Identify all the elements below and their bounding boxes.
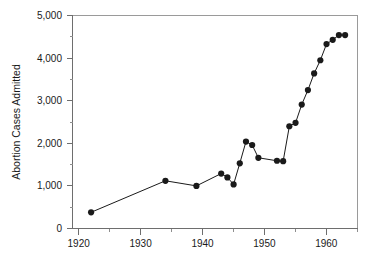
data-point	[299, 101, 305, 107]
data-point	[243, 139, 249, 145]
y-tick-label-3000: 3,000	[37, 95, 62, 106]
y-tick-label-5000: 5,000	[37, 10, 62, 21]
data-point	[330, 37, 336, 43]
data-point	[218, 170, 224, 176]
y-tick-label-1000: 1,000	[37, 180, 62, 191]
data-point	[317, 57, 323, 63]
y-tick-label-4000: 4,000	[37, 53, 62, 64]
data-point	[311, 70, 317, 76]
data-point	[162, 178, 168, 184]
x-tick-label-1940: 1940	[191, 238, 214, 249]
data-point	[237, 160, 243, 166]
data-point	[274, 158, 280, 164]
data-point	[292, 120, 298, 126]
x-tick-label-1950: 1950	[253, 238, 276, 249]
y-tick-label-2000: 2,000	[37, 138, 62, 149]
x-tick-label-1920: 1920	[68, 238, 91, 249]
data-point	[230, 181, 236, 187]
data-point	[336, 32, 342, 38]
data-point	[193, 183, 199, 189]
y-tick-label-0: 0	[56, 223, 62, 234]
data-point	[286, 123, 292, 129]
data-point	[88, 209, 94, 215]
x-tick-label-1960: 1960	[315, 238, 338, 249]
chart-canvas: 0 1,000 2,000 3,000 4,000 5,000 1920 193…	[0, 0, 384, 270]
chart-figure: 0 1,000 2,000 3,000 4,000 5,000 1920 193…	[0, 0, 384, 270]
data-point	[249, 142, 255, 148]
data-point	[342, 32, 348, 38]
data-point	[255, 155, 261, 161]
data-point	[280, 158, 286, 164]
data-point	[323, 41, 329, 47]
y-axis-title: Abortion Cases Admitted	[10, 64, 22, 180]
x-tick-label-1930: 1930	[129, 238, 152, 249]
data-point	[224, 174, 230, 180]
data-point	[305, 87, 311, 93]
